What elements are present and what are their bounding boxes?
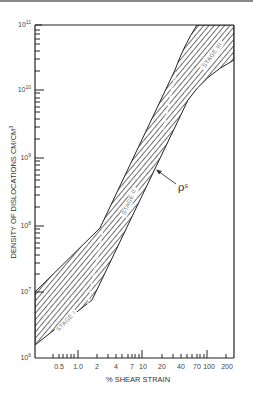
svg-text:200: 200 bbox=[221, 363, 233, 370]
svg-text:4: 4 bbox=[114, 363, 118, 370]
svg-text:70: 70 bbox=[193, 363, 201, 370]
svg-text:108: 108 bbox=[20, 220, 31, 229]
svg-text:1010: 1010 bbox=[18, 84, 32, 93]
x-axis-ticks bbox=[53, 350, 226, 358]
svg-text:20: 20 bbox=[158, 363, 166, 370]
svg-text:40: 40 bbox=[177, 363, 185, 370]
dislocation-band bbox=[35, 25, 234, 345]
svg-text:10: 10 bbox=[139, 363, 147, 370]
svg-text:100: 100 bbox=[203, 363, 215, 370]
svg-text:1.0: 1.0 bbox=[73, 363, 83, 370]
svg-text:107: 107 bbox=[20, 286, 31, 295]
svg-text:2: 2 bbox=[95, 363, 99, 370]
rho-s-annotation: ρs bbox=[156, 170, 188, 195]
y-axis-ticks bbox=[35, 25, 44, 292]
chart: STAGE I STAGE II STAGE III ρs 1011 1010 … bbox=[0, 0, 253, 396]
x-axis-title: % SHEAR STRAIN bbox=[106, 375, 170, 384]
rho-label: ρs bbox=[178, 181, 188, 194]
y-axis-title: DENSITY OF DISLOCATIONS CM/CM3 bbox=[8, 126, 18, 259]
svg-text:0.5: 0.5 bbox=[54, 363, 64, 370]
svg-text:106: 106 bbox=[20, 352, 31, 361]
y-tick-labels: 1011 1010 109 108 107 106 bbox=[18, 19, 32, 361]
x-tick-labels: 0.5 1.0 2 4 7 10 20 40 70 100 200 bbox=[54, 363, 233, 370]
svg-text:7: 7 bbox=[130, 363, 134, 370]
svg-text:1011: 1011 bbox=[18, 19, 31, 28]
svg-text:109: 109 bbox=[20, 152, 31, 161]
